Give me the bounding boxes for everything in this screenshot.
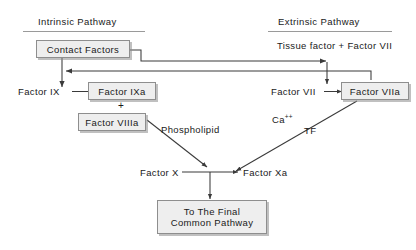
heading-intrinsic-rule — [23, 31, 145, 32]
label-calcium: Ca++ — [272, 113, 292, 125]
node-factor-viiia[interactable]: Factor VIIIa — [78, 113, 146, 131]
edge-factor-viia-feedback-to-intrinsic — [66, 71, 371, 80]
plus-sign-intrinsic: + — [118, 100, 124, 111]
node-factor-viiia-label: Factor VIIIa — [85, 117, 138, 128]
node-contact-factors[interactable]: Contact Factors — [36, 40, 130, 58]
edge-factor-viia-to-factor-xa — [236, 101, 357, 171]
label-calcium-text: Ca — [272, 114, 285, 125]
heading-intrinsic-pathway: Intrinsic Pathway — [38, 16, 117, 27]
label-phospholipid: Phospholipid — [161, 124, 220, 135]
label-calcium-charge: ++ — [285, 113, 293, 120]
node-contact-factors-label: Contact Factors — [47, 44, 119, 55]
label-factor-xa: Factor Xa — [243, 167, 287, 178]
label-factor-ix: Factor IX — [18, 86, 60, 97]
label-factor-x: Factor X — [140, 167, 179, 178]
label-factor-vii: Factor VII — [271, 86, 316, 97]
node-factor-ixa[interactable]: Factor IXa — [88, 82, 156, 100]
node-factor-viia[interactable]: Factor VIIa — [341, 82, 409, 100]
node-final-common-pathway-line1: To The Final — [184, 206, 240, 217]
node-factor-viia-label: Factor VIIa — [350, 86, 400, 97]
edge-contact-factors-to-tissue-factor — [130, 50, 326, 61]
label-tissue-factor-plus-factor-vii: Tissue factor + Factor VII — [277, 40, 392, 51]
node-final-common-pathway[interactable]: To The Final Common Pathway — [157, 200, 267, 234]
label-tissue-factor-abbrev: TF — [304, 125, 316, 136]
coagulation-cascade-diagram: Intrinsic Pathway Extrinsic Pathway Cont… — [0, 0, 416, 250]
node-factor-ixa-label: Factor IXa — [98, 86, 145, 97]
node-final-common-pathway-line2: Common Pathway — [171, 217, 254, 228]
heading-extrinsic-pathway: Extrinsic Pathway — [278, 16, 360, 27]
heading-extrinsic-rule — [268, 31, 392, 32]
